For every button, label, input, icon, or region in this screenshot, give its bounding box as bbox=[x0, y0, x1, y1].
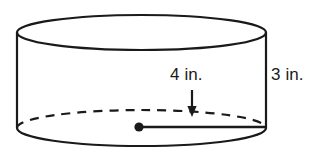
center-dot bbox=[134, 122, 143, 131]
diameter-label: 4 in. bbox=[170, 66, 203, 84]
cylinder-figure: 4 in. 3 in. bbox=[0, 0, 329, 163]
height-label: 3 in. bbox=[271, 66, 304, 84]
